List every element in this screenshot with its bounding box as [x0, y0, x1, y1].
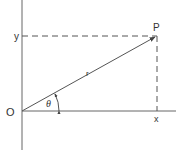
polar-diagram: O y P x r θ [0, 0, 179, 150]
point-label: P [153, 22, 160, 33]
radius-label: r [86, 69, 89, 78]
angle-label: θ [46, 98, 51, 109]
y-label: y [14, 31, 19, 42]
x-label: x [154, 114, 159, 124]
origin-label: O [6, 106, 15, 118]
angle-arc [55, 94, 59, 111]
